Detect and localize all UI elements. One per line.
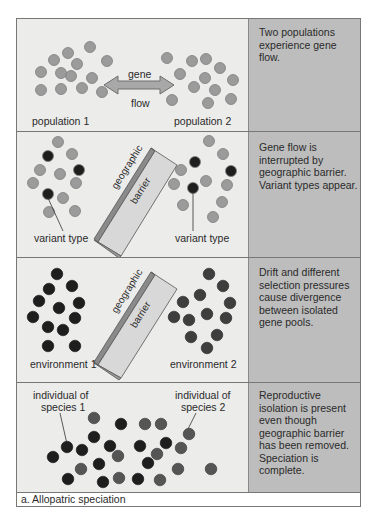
panel-reproductive-isolation: individual of species 1 individual of sp… bbox=[17, 383, 360, 494]
variant-type-label-left: variant type bbox=[34, 232, 88, 244]
description-box: Reproductive isolation is present even t… bbox=[249, 383, 360, 494]
figure-caption: a. Allopatric speciation bbox=[17, 492, 360, 506]
panel-gene-flow: gene flow population 1 population 2 Two … bbox=[17, 19, 360, 131]
panel-illustration: gene flow population 1 population 2 bbox=[17, 19, 249, 131]
variant-type-label-right: variant type bbox=[175, 232, 229, 244]
description-box: Gene flow is interrupted by geographic b… bbox=[249, 132, 360, 257]
description-box: Two populations experience gene flow. bbox=[249, 19, 360, 131]
panel-divergence: geographic barrier environment 1 environ… bbox=[17, 258, 360, 382]
individual-species-2-label-line2: species 2 bbox=[181, 401, 225, 413]
description-text: Reproductive isolation is present even t… bbox=[259, 389, 359, 477]
environment-2-label: environment 2 bbox=[170, 358, 237, 370]
figure-frame: gene flow population 1 population 2 Two … bbox=[16, 18, 361, 507]
panel-illustration: geographic barrier variant type variant … bbox=[17, 132, 249, 257]
gene-label: gene bbox=[128, 68, 151, 80]
caption-text: a. Allopatric speciation bbox=[21, 493, 125, 505]
description-text: Drift and different selection pressures … bbox=[259, 266, 359, 329]
panel-barrier: geographic barrier variant type variant … bbox=[17, 132, 360, 257]
environment-1-label: environment 1 bbox=[30, 358, 97, 370]
description-box: Drift and different selection pressures … bbox=[249, 258, 360, 382]
panel-illustration: individual of species 1 individual of sp… bbox=[17, 383, 249, 494]
population-1-label: population 1 bbox=[32, 115, 89, 127]
individual-species-1-label-line1: individual of bbox=[33, 389, 88, 401]
description-text: Gene flow is interrupted by geographic b… bbox=[259, 141, 359, 191]
panel-illustration: geographic barrier environment 1 environ… bbox=[17, 258, 249, 382]
flow-label: flow bbox=[131, 97, 150, 109]
population-2-label: population 2 bbox=[174, 115, 231, 127]
individual-species-1-label-line2: species 1 bbox=[41, 401, 85, 413]
description-text: Two populations experience gene flow. bbox=[259, 26, 359, 64]
individual-species-2-label-line1: individual of bbox=[175, 389, 230, 401]
